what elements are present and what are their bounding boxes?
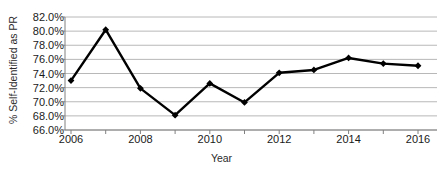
data-point-marker [415, 62, 422, 69]
data-point-marker [311, 67, 318, 74]
x-axis-tick-label: 2016 [406, 133, 430, 145]
x-axis-title: Year [0, 152, 443, 164]
x-axis-tick-label: 2010 [198, 133, 222, 145]
x-axis-tick-label: 2006 [59, 133, 83, 145]
data-point-marker [345, 55, 352, 62]
x-axis-tick-label: 2014 [336, 133, 360, 145]
data-point-markers [68, 26, 422, 118]
data-point-marker [380, 60, 387, 67]
gridlines [65, 17, 437, 130]
chart-container: % Self-Identified as PR 82.0%80.0%78.0%7… [0, 0, 443, 179]
x-axis-ticks [71, 130, 418, 134]
x-axis-tick-label: 2008 [128, 133, 152, 145]
x-axis-tick-label: 2012 [267, 133, 291, 145]
